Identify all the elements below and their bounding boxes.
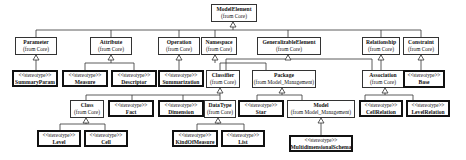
- class-name: Package: [274, 72, 294, 79]
- class-classifier: Classifier (from Core): [206, 70, 240, 88]
- class-name: Namespace: [205, 39, 232, 46]
- class-operation: Operation (from Core): [158, 37, 200, 55]
- class-name: Constraint: [408, 39, 434, 46]
- class-name: KindOfMeasure: [175, 139, 214, 146]
- class-parameter: Parameter (from Core): [15, 37, 57, 55]
- class-name: Star: [256, 109, 266, 116]
- class-name: Model: [313, 102, 328, 109]
- stereotype-label: <<stereotype>>: [114, 102, 147, 109]
- stereotype-kindofmeasure: <<stereotype>> KindOfMeasure: [172, 130, 218, 147]
- stereotype-star: <<stereotype>> Star: [238, 100, 284, 117]
- stereotype-label: <<stereotype>>: [164, 72, 197, 79]
- class-name: CellRelation: [366, 109, 396, 116]
- class-package: (from Core): [276, 46, 302, 53]
- class-name: Level: [52, 139, 65, 146]
- class-package: (from Model_Management): [254, 79, 314, 86]
- class-name: Class: [81, 102, 94, 109]
- class-name: MultidimensionalSchema: [291, 144, 352, 151]
- stereotype-list: <<stereotype>> List: [221, 130, 265, 147]
- class-name: Descriptor: [121, 79, 146, 86]
- class-model: Model (from Model_Management): [287, 100, 355, 118]
- class-package: (from Core): [74, 109, 100, 116]
- class-package: (from Core): [408, 46, 434, 53]
- class-constraint: Constraint (from Core): [403, 37, 439, 55]
- stereotype-label: <<stereotype>>: [226, 132, 259, 139]
- class-name: Measure: [75, 79, 96, 86]
- class-package: (from Core): [210, 79, 236, 86]
- class-package: (from Core): [98, 46, 124, 53]
- stereotype-label: <<stereotype>>: [89, 132, 122, 139]
- stereotype-label: <<stereotype>>: [42, 132, 75, 139]
- class-name: GeneralizableElement: [262, 39, 315, 46]
- class-package: (from Core): [206, 46, 232, 53]
- class-name: List: [238, 139, 247, 146]
- class-association: Association (from Core): [362, 70, 404, 88]
- class-relationship: Relationship (from Core): [362, 37, 400, 55]
- stereotype-label: <<stereotype>>: [117, 72, 150, 79]
- class-name: Cell: [101, 139, 111, 146]
- class-package: (from Core): [370, 79, 396, 86]
- class-package: (from Core): [368, 46, 394, 53]
- class-package: (from Core): [166, 46, 192, 53]
- class-class: Class (from Core): [70, 100, 104, 118]
- stereotype-summaryparam: <<stereotype>> SummaryParam: [12, 70, 58, 87]
- class-package: Package (from Model_Management): [252, 70, 316, 88]
- stereotype-summarization: <<stereotype>> Summarization: [158, 70, 204, 87]
- class-name: Attribute: [100, 39, 122, 46]
- stereotype-label: <<stereotype>>: [244, 102, 277, 109]
- class-name: Parameter: [23, 39, 48, 46]
- stereotype-label: <<stereotype>>: [164, 102, 197, 109]
- class-package: (from Core): [207, 109, 233, 116]
- stereotype-descriptor: <<stereotype>> Descriptor: [111, 70, 157, 87]
- stereotype-cell: <<stereotype>> Cell: [84, 130, 128, 147]
- class-name: Dimension: [168, 109, 194, 116]
- stereotype-fact: <<stereotype>> Fact: [108, 100, 154, 117]
- stereotype-label: <<stereotype>>: [178, 132, 211, 139]
- stereotype-label: <<stereotype>>: [407, 72, 440, 79]
- class-name: Relationship: [366, 39, 396, 46]
- class-modelelement: ModelElement (from Core): [211, 4, 257, 22]
- stereotype-label: <<stereotype>>: [18, 72, 51, 79]
- class-name: DataType: [208, 102, 231, 109]
- class-name: Fact: [126, 109, 137, 116]
- class-name: Summarization: [163, 79, 200, 86]
- uml-diagram: ModelElement (from Core) Parameter (from…: [0, 0, 466, 160]
- class-package: (from Model_Management): [291, 109, 351, 116]
- class-name: Classifier: [212, 72, 235, 79]
- class-name: Association: [369, 72, 396, 79]
- stereotype-cellrelation: <<stereotype>> CellRelation: [359, 100, 403, 117]
- class-attribute: Attribute (from Core): [90, 37, 132, 55]
- stereotype-label: <<stereotype>>: [68, 72, 101, 79]
- stereotype-dimension: <<stereotype>> Dimension: [158, 100, 204, 117]
- stereotype-multidimensionalschema: <<stereotype>> MultidimensionalSchema: [289, 135, 353, 152]
- stereotype-levelrelation: <<stereotype>> LevelRelation: [406, 100, 450, 117]
- class-name: LevelRelation: [411, 109, 444, 116]
- class-package: (from Core): [221, 13, 247, 20]
- class-namespace: Namespace (from Core): [201, 37, 237, 55]
- class-package: (from Core): [23, 46, 49, 53]
- class-name: SummaryParam: [15, 79, 55, 86]
- stereotype-label: <<stereotype>>: [411, 102, 444, 109]
- stereotype-label: <<stereotype>>: [364, 102, 397, 109]
- stereotype-level: <<stereotype>> Level: [37, 130, 81, 147]
- stereotype-measure: <<stereotype>> Measure: [62, 70, 108, 87]
- class-name: Base: [418, 79, 429, 86]
- class-datatype: DataType (from Core): [204, 100, 236, 118]
- stereotype-base: <<stereotype>> Base: [403, 70, 445, 88]
- class-generalizableelement: GeneralizableElement (from Core): [257, 37, 321, 55]
- stereotype-label: <<stereotype>>: [304, 137, 337, 144]
- class-name: Operation: [167, 39, 192, 46]
- class-name: ModelElement: [216, 6, 251, 13]
